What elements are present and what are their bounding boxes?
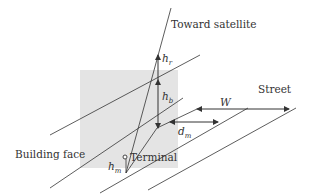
label-w: W	[220, 96, 232, 108]
street-canyon-diagram: Toward satellite Street Building face Te…	[0, 0, 313, 194]
label-street: Street	[258, 83, 292, 95]
label-building-face: Building face	[15, 148, 85, 160]
label-terminal: Terminal	[130, 151, 178, 163]
terminal-marker-icon	[123, 155, 127, 159]
label-h-r: hr	[162, 52, 173, 67]
label-d-m: dm	[178, 125, 192, 140]
label-toward-satellite: Toward satellite	[171, 18, 256, 30]
